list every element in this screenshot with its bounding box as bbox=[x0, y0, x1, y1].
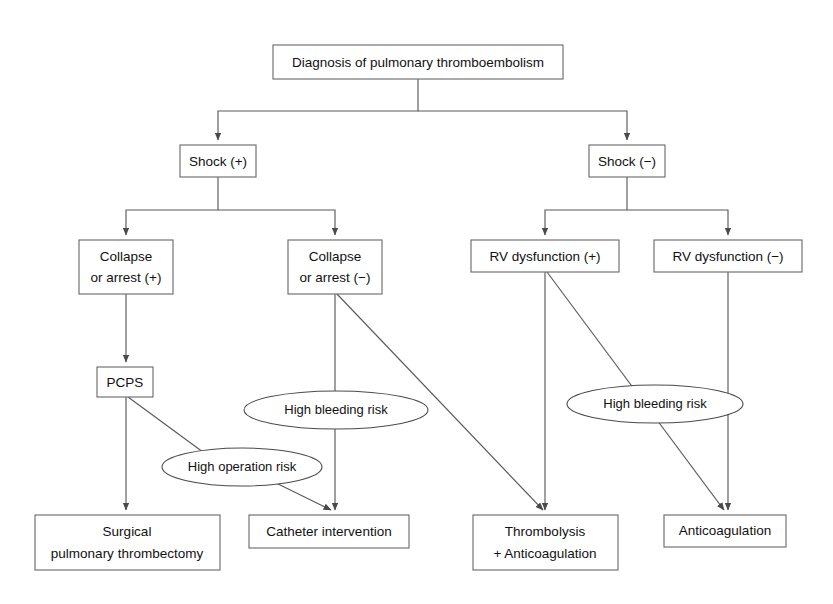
node-surgical-pulmonary-thrombectomy[interactable]: Surgical pulmonary thrombectomy bbox=[35, 515, 220, 570]
node-rv-dysfunction-negative[interactable]: RV dysfunction (−) bbox=[654, 240, 802, 272]
node-label-collapse-positive-line2: or arrest (+) bbox=[91, 270, 162, 285]
flowchart-svg: Diagnosis of pulmonary thromboembolism S… bbox=[0, 0, 833, 604]
node-label-shock-positive: Shock (+) bbox=[189, 154, 247, 169]
edge-root-to-shock-positive bbox=[218, 79, 418, 140]
node-label-high-bleeding-risk-left: High bleeding risk bbox=[284, 402, 388, 417]
node-label-surgical-line2: pulmonary thrombectomy bbox=[51, 546, 204, 561]
edge-shock-negative-to-rv-positive bbox=[545, 177, 627, 235]
edge-root-to-shock-negative bbox=[418, 111, 627, 140]
node-label-rv-dysfunction-negative: RV dysfunction (−) bbox=[672, 249, 783, 264]
node-label-collapse-negative-line2: or arrest (−) bbox=[300, 270, 371, 285]
node-thrombolysis-anticoagulation[interactable]: Thrombolysis + Anticoagulation bbox=[473, 515, 618, 570]
node-label-shock-negative: Shock (−) bbox=[598, 154, 656, 169]
node-rv-dysfunction-positive[interactable]: RV dysfunction (+) bbox=[471, 240, 619, 272]
node-label-thrombolysis-line2: + Anticoagulation bbox=[493, 546, 596, 561]
node-diagnosis-root[interactable]: Diagnosis of pulmonary thromboembolism bbox=[273, 45, 563, 79]
flowchart-canvas: Diagnosis of pulmonary thromboembolism S… bbox=[0, 0, 833, 604]
node-label-surgical-line1: Surgical bbox=[103, 524, 152, 539]
node-collapse-or-arrest-negative[interactable]: Collapse or arrest (−) bbox=[288, 240, 382, 294]
edge-pcps-to-high-operation-risk bbox=[128, 397, 207, 455]
node-label-catheter-intervention: Catheter intervention bbox=[266, 524, 391, 539]
node-label-collapse-positive-line1: Collapse bbox=[100, 249, 153, 264]
node-pcps[interactable]: PCPS bbox=[97, 367, 153, 397]
node-label-collapse-negative-line1: Collapse bbox=[309, 249, 362, 264]
node-label-thrombolysis-line1: Thrombolysis bbox=[505, 524, 586, 539]
edge-shock-positive-to-collapse-positive bbox=[126, 177, 218, 235]
node-shock-positive[interactable]: Shock (+) bbox=[180, 145, 256, 177]
node-collapse-or-arrest-positive[interactable]: Collapse or arrest (+) bbox=[79, 240, 173, 294]
node-label-diagnosis-root: Diagnosis of pulmonary thromboembolism bbox=[292, 55, 544, 70]
node-high-bleeding-risk-left[interactable]: High bleeding risk bbox=[244, 391, 428, 429]
node-catheter-intervention[interactable]: Catheter intervention bbox=[249, 515, 409, 548]
edge-high-operation-risk-to-catheter-intervention bbox=[272, 481, 331, 510]
node-high-bleeding-risk-right[interactable]: High bleeding risk bbox=[567, 385, 743, 423]
node-shock-negative[interactable]: Shock (−) bbox=[589, 145, 665, 177]
edge-shock-positive-to-collapse-negative bbox=[218, 210, 335, 235]
node-high-operation-risk[interactable]: High operation risk bbox=[162, 448, 322, 486]
node-label-high-bleeding-risk-right: High bleeding risk bbox=[603, 396, 707, 411]
edge-shock-negative-to-rv-negative bbox=[627, 210, 728, 235]
edge-layer bbox=[126, 79, 728, 510]
node-label-rv-dysfunction-positive: RV dysfunction (+) bbox=[489, 249, 600, 264]
node-label-high-operation-risk: High operation risk bbox=[188, 459, 297, 474]
node-label-anticoagulation: Anticoagulation bbox=[679, 523, 771, 538]
node-anticoagulation[interactable]: Anticoagulation bbox=[664, 515, 786, 547]
node-label-pcps: PCPS bbox=[107, 375, 144, 390]
